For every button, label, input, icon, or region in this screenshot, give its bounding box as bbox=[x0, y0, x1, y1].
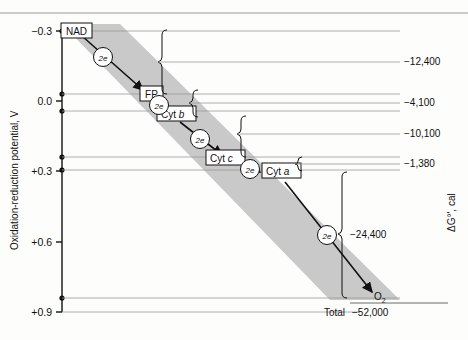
electron-marker-1-label: 2e bbox=[98, 54, 108, 63]
y-tick-label-1: 0.0 bbox=[37, 95, 52, 107]
carrier-label-cyta: Cyt bbox=[266, 166, 284, 177]
electron-marker-5-label: 2e bbox=[322, 232, 332, 241]
carrier-label-cytb-italic: b bbox=[179, 109, 185, 120]
electron-marker-4-label: 2e bbox=[245, 166, 255, 175]
free-energy-value-1: −12,400 bbox=[404, 56, 441, 67]
carrier-label-cyta-italic: a bbox=[284, 166, 290, 177]
carrier-label-cytc-italic: c bbox=[228, 153, 233, 164]
left-axis-title: Oxidation-reduction potential, V bbox=[9, 110, 20, 250]
free-energy-value-3: −10,100 bbox=[404, 128, 441, 139]
free-energy-value-2: −4,100 bbox=[404, 97, 435, 108]
redox-potential-diagram: −0.3 0.0 +0.3 +0.6 +0.9 Oxidation-reduct… bbox=[0, 0, 468, 340]
electron-marker-3: 2e bbox=[191, 130, 210, 149]
total-value: −52,000 bbox=[352, 307, 389, 318]
total-label: Total bbox=[324, 307, 345, 318]
electron-marker-1: 2e bbox=[94, 48, 113, 67]
right-axis-title: ΔG°', cal bbox=[446, 193, 457, 232]
y-tick-label-3: +0.6 bbox=[31, 236, 52, 248]
svg-text:Cyt a: Cyt a bbox=[266, 166, 290, 177]
electron-marker-4: 2e bbox=[241, 160, 260, 179]
y-tick-label-0: −0.3 bbox=[31, 25, 52, 37]
y-tick-label-2: +0.3 bbox=[31, 165, 52, 177]
carrier-label-o2-subscript: 2 bbox=[382, 297, 386, 304]
electron-marker-3-label: 2e bbox=[195, 136, 205, 145]
electron-marker-2: 2e bbox=[150, 96, 169, 115]
carrier-node-cyta[interactable]: Cyt a bbox=[262, 163, 301, 178]
carrier-node-cytc[interactable]: Cyt c bbox=[206, 150, 245, 165]
electron-marker-5: 2e bbox=[318, 226, 337, 245]
carrier-label-nad: NAD bbox=[66, 26, 87, 37]
svg-text:Cyt c: Cyt c bbox=[210, 153, 233, 164]
carrier-label-cytc: Cyt bbox=[210, 153, 228, 164]
y-tick-label-4: +0.9 bbox=[31, 306, 52, 318]
free-energy-value-4: −1,380 bbox=[404, 158, 435, 169]
carrier-node-nad[interactable]: NAD bbox=[61, 23, 92, 38]
free-energy-value-5: −24,400 bbox=[350, 229, 387, 240]
electron-marker-2-label: 2e bbox=[154, 102, 164, 111]
figure-canvas: −0.3 0.0 +0.3 +0.6 +0.9 Oxidation-reduct… bbox=[0, 0, 468, 340]
